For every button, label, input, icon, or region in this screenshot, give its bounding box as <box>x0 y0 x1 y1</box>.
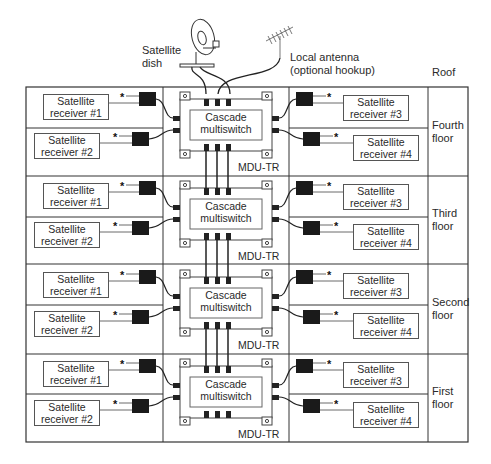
receiver-number: receiver #4 <box>354 237 418 249</box>
floor-label: Third floor <box>432 207 457 233</box>
roof-label: Roof <box>432 66 455 79</box>
star-marker: * <box>120 91 124 103</box>
receiver-label: Satellite <box>35 134 99 146</box>
receiver-number: receiver #3 <box>344 197 408 209</box>
multiswitch-line1: Cascade <box>192 111 260 123</box>
multiswitch-label: Cascade multiswitch <box>192 289 260 313</box>
receiver-3: Satellite receiver #3 <box>343 362 409 388</box>
satellite-dish-icon <box>180 17 219 67</box>
model-label: MDU-TR <box>238 161 279 173</box>
multiswitch-line1: Cascade <box>192 200 260 212</box>
receiver-number: receiver #4 <box>354 415 418 427</box>
receiver-label: Satellite <box>44 362 108 374</box>
receiver-number: receiver #2 <box>35 235 99 247</box>
receiver-2: Satellite receiver #2 <box>34 133 100 159</box>
multiswitch-line1: Cascade <box>192 289 260 301</box>
receiver-number: receiver #1 <box>44 285 108 297</box>
multiswitch-line1: Cascade <box>192 378 260 390</box>
receiver-1: Satellite receiver #1 <box>43 183 109 209</box>
dish-label-line2: dish <box>142 57 181 70</box>
receiver-label: Satellite <box>35 312 99 324</box>
floor-label-line2: floor <box>432 309 469 322</box>
multiswitch-label: Cascade multiswitch <box>192 111 260 135</box>
receiver-label: Satellite <box>44 184 108 196</box>
antenna-label-line2: (optional hookup) <box>290 64 375 77</box>
receiver-number: receiver #3 <box>344 375 408 387</box>
star-marker: * <box>113 309 117 321</box>
star-marker: * <box>113 131 117 143</box>
receiver-label: Satellite <box>354 314 418 326</box>
floor-label-line2: floor <box>432 220 457 233</box>
floor-label: Fourth floor <box>432 119 464 145</box>
antenna-label-line1: Local antenna <box>290 51 375 64</box>
star-marker: * <box>113 398 117 410</box>
multiswitch-line2: multiswitch <box>192 212 260 224</box>
star-marker: * <box>334 220 338 232</box>
receiver-number: receiver #1 <box>44 374 108 386</box>
floor-label-line1: First <box>432 385 453 398</box>
floor-label: First floor <box>432 385 453 411</box>
antenna-icon <box>266 26 293 58</box>
multiswitch-label: Cascade multiswitch <box>192 200 260 224</box>
receiver-label: Satellite <box>354 225 418 237</box>
receiver-label: Satellite <box>35 401 99 413</box>
receiver-number: receiver #2 <box>35 324 99 336</box>
receiver-4: Satellite receiver #4 <box>353 224 419 250</box>
antenna-label: Local antenna (optional hookup) <box>290 51 375 77</box>
floor-label-line1: Third <box>432 207 457 220</box>
receiver-label: Satellite <box>344 96 408 108</box>
dish-label: Satellite dish <box>142 44 181 70</box>
receiver-number: receiver #3 <box>344 286 408 298</box>
multiswitch-label: Cascade multiswitch <box>192 378 260 402</box>
receiver-label: Satellite <box>344 363 408 375</box>
floor-label-line2: floor <box>432 132 464 145</box>
multiswitch-line2: multiswitch <box>192 123 260 135</box>
receiver-4: Satellite receiver #4 <box>353 313 419 339</box>
receiver-number: receiver #3 <box>344 108 408 120</box>
model-label: MDU-TR <box>238 250 279 262</box>
receiver-2: Satellite receiver #2 <box>34 222 100 248</box>
floor-label-line1: Fourth <box>432 119 464 132</box>
model-label: MDU-TR <box>238 339 279 351</box>
receiver-2: Satellite receiver #2 <box>34 400 100 426</box>
receiver-4: Satellite receiver #4 <box>353 402 419 428</box>
receiver-2: Satellite receiver #2 <box>34 311 100 337</box>
receiver-1: Satellite receiver #1 <box>43 94 109 120</box>
star-marker: * <box>120 269 124 281</box>
multiswitch-line2: multiswitch <box>192 390 260 402</box>
floor-label: Second floor <box>432 296 469 322</box>
receiver-label: Satellite <box>44 273 108 285</box>
star-marker: * <box>113 220 117 232</box>
receiver-number: receiver #2 <box>35 146 99 158</box>
receiver-1: Satellite receiver #1 <box>43 272 109 298</box>
receiver-number: receiver #4 <box>354 326 418 338</box>
star-marker: * <box>120 358 124 370</box>
receiver-3: Satellite receiver #3 <box>343 95 409 121</box>
floor-label-line2: floor <box>432 398 453 411</box>
star-marker: * <box>120 180 124 192</box>
receiver-label: Satellite <box>344 274 408 286</box>
star-marker: * <box>334 398 338 410</box>
receiver-number: receiver #2 <box>35 413 99 425</box>
receiver-number: receiver #1 <box>44 196 108 208</box>
star-marker: * <box>334 131 338 143</box>
receiver-label: Satellite <box>35 223 99 235</box>
star-marker: * <box>327 180 331 192</box>
dish-label-line1: Satellite <box>142 44 181 57</box>
star-marker: * <box>327 358 331 370</box>
model-label: MDU-TR <box>238 428 279 440</box>
star-marker: * <box>327 91 331 103</box>
receiver-3: Satellite receiver #3 <box>343 184 409 210</box>
receiver-label: Satellite <box>354 136 418 148</box>
star-marker: * <box>327 269 331 281</box>
receiver-label: Satellite <box>354 403 418 415</box>
receiver-4: Satellite receiver #4 <box>353 135 419 161</box>
receiver-number: receiver #4 <box>354 148 418 160</box>
receiver-3: Satellite receiver #3 <box>343 273 409 299</box>
star-marker: * <box>334 309 338 321</box>
receiver-1: Satellite receiver #1 <box>43 361 109 387</box>
floor-label-line1: Second <box>432 296 469 309</box>
receiver-label: Satellite <box>344 185 408 197</box>
receiver-label: Satellite <box>44 95 108 107</box>
multiswitch-line2: multiswitch <box>192 301 260 313</box>
